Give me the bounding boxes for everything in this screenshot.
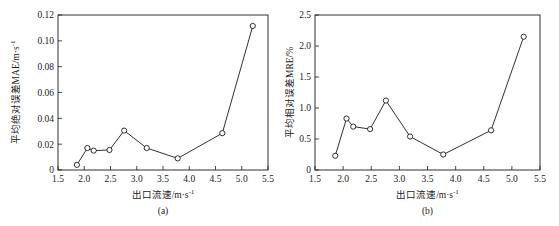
x-tick-label: 3.0 [131, 174, 143, 184]
y-tick-label: 0 [49, 165, 54, 175]
data-point-marker [175, 156, 180, 161]
x-tick-label: 5.0 [236, 174, 248, 184]
data-point-marker [521, 34, 526, 39]
data-point-marker [333, 153, 338, 158]
x-tick-label: 3.0 [393, 174, 405, 184]
y-tick-label: 1.0 [299, 103, 311, 113]
x-tick-label: 5.0 [506, 174, 518, 184]
chart-a-caption: (a) [123, 206, 203, 216]
y-tick-label: 2.0 [299, 41, 311, 51]
x-tick-label: 4.0 [183, 174, 195, 184]
x-tick-label: 3.5 [157, 174, 169, 184]
data-point-marker [368, 126, 373, 131]
y-tick-label: 0.08 [37, 62, 54, 72]
data-point-marker [383, 98, 388, 103]
x-tick-label: 4.5 [210, 174, 222, 184]
figure-container: 1.52.02.53.03.54.04.55.05.500.020.040.06… [0, 0, 559, 226]
data-point-marker [122, 128, 127, 133]
chart-a-ylabel: 平均绝对误差MAE/m·s-1 [8, 41, 22, 145]
x-tick-label: 5.5 [262, 174, 274, 184]
y-tick-label: 1.5 [299, 72, 311, 82]
y-tick-label: 0.06 [37, 88, 54, 98]
data-point-marker [407, 134, 412, 139]
x-tick-label: 1.5 [309, 174, 321, 184]
x-tick-label: 4.5 [478, 174, 490, 184]
data-point-marker [344, 116, 349, 121]
data-point-marker [351, 124, 356, 129]
data-series-line [335, 37, 523, 156]
y-tick-label: 0 [306, 165, 311, 175]
chart-panel-b: 1.52.02.53.03.54.04.55.05.500.51.01.52.0… [280, 0, 559, 226]
data-point-marker [488, 128, 493, 133]
x-tick-label: 5.5 [534, 174, 546, 184]
data-point-marker [250, 23, 255, 28]
data-point-marker [107, 147, 112, 152]
data-series-line [77, 26, 253, 165]
data-point-marker [441, 152, 446, 157]
x-tick-label: 4.0 [450, 174, 462, 184]
x-tick-label: 2.5 [365, 174, 377, 184]
x-tick-label: 2.0 [337, 174, 349, 184]
chart-a-xlabel: 出口流速/m·s-1 [103, 187, 223, 201]
x-tick-label: 2.5 [105, 174, 117, 184]
y-tick-label: 0.02 [37, 140, 54, 150]
data-point-marker [91, 148, 96, 153]
data-point-marker [74, 162, 79, 167]
y-tick-label: 0.5 [299, 134, 311, 144]
chart-b-ylabel: 平均相对误差MRE/% [282, 47, 296, 138]
plot-frame [315, 15, 540, 170]
data-point-marker [220, 131, 225, 136]
y-tick-label: 2.5 [299, 10, 311, 20]
chart-panel-a: 1.52.02.53.03.54.04.55.05.500.020.040.06… [0, 0, 279, 226]
data-point-marker [144, 145, 149, 150]
chart-b-caption: (b) [388, 206, 468, 216]
y-tick-label: 0.10 [37, 36, 54, 46]
data-point-marker [85, 145, 90, 150]
x-tick-label: 1.5 [52, 174, 64, 184]
y-tick-label: 0.12 [37, 10, 54, 20]
x-tick-label: 3.5 [422, 174, 434, 184]
chart-b-xlabel: 出口流速/m·s-1 [368, 187, 488, 201]
x-tick-label: 2.0 [78, 174, 90, 184]
y-tick-label: 0.04 [37, 114, 54, 124]
